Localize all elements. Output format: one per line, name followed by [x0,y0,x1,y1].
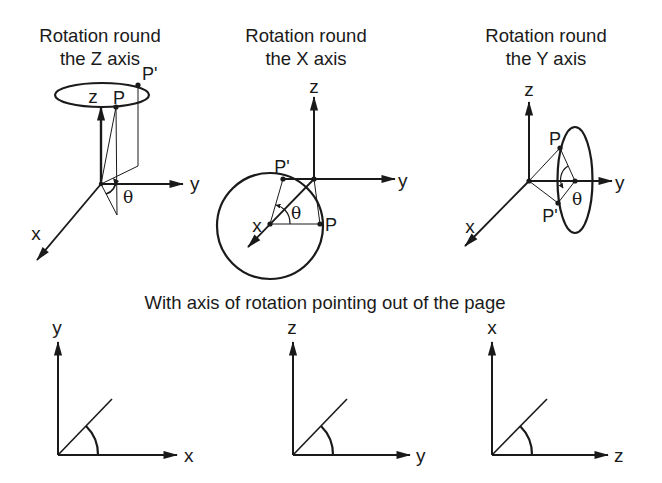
point-p-prime-label: P' [142,64,157,84]
x-axis-label: x [465,216,475,237]
origin-dot [99,182,103,186]
y-axis-label: y [398,170,408,191]
vertical-axis-label: y [52,317,62,338]
vertical-axis-label: z [287,317,297,338]
panel-title-line2: the Z axis [60,48,140,69]
panel-rotation-y: Rotation round the Y axis z y x θ P P' [465,25,625,246]
rotated-vector-line [58,399,112,455]
p-projection-line [116,107,117,215]
theta-label: θ [572,189,582,209]
rotated-vector-line [293,399,347,455]
p-to-center-line [560,148,575,181]
x-axis-label: x [31,223,41,244]
point-p-prime-dot [135,82,140,87]
x-axis-arrow [248,179,314,247]
rotation-diagram: Rotation round the Z axis z y x θ P P' R… [0,0,662,483]
origin-to-p-line [314,179,320,224]
panel-title-line1: Rotation round [245,25,366,46]
z-axis-label: z [309,76,319,97]
point-p-prime-label: P' [274,157,289,177]
y-axis-label: y [190,173,200,194]
theta-arc [561,166,568,188]
planar-diagram-xy: y x [52,317,194,466]
origin-dot [311,176,316,181]
origin-to-p-foot-line [101,184,117,215]
origin-to-p-line [529,148,560,181]
vertical-axis-label: x [487,317,497,338]
rotation-center-dot [267,221,272,226]
x-axis-label: x [252,215,262,236]
theta-label: θ [123,187,133,207]
horizontal-axis-label: y [416,445,426,466]
planar-diagram-zx: x z [487,317,623,466]
point-p-label: P [549,129,561,149]
theta-label: θ [291,203,301,223]
origin-dot [526,178,531,183]
point-p-dot [317,221,322,226]
point-p-prime-label: P' [542,206,557,226]
point-p-label: P [325,215,337,235]
panel-rotation-x: Rotation round the X axis z y x θ P' P [217,25,408,279]
angle-arc [520,426,532,455]
theta-arc [285,210,290,224]
z-axis-label: z [88,86,98,107]
origin-to-p-line [101,107,116,184]
planar-section-subtitle: With axis of rotation pointing out of th… [145,292,506,313]
point-p-label: P [113,88,125,108]
point-p-prime-dot [280,176,285,181]
panel-title-line1: Rotation round [485,25,606,46]
horizontal-axis-label: z [614,445,624,466]
angle-arc [321,426,333,455]
panel-title-line1: Rotation round [39,25,160,46]
panel-title-line2: the X axis [265,48,346,69]
origin-to-p-prime-foot-line [101,166,138,184]
rotation-path-ellipse [55,83,149,107]
y-axis-label: y [615,172,625,193]
angle-arc [86,426,98,455]
planar-diagram-yz: z y [287,317,426,466]
point-p-prime-dot [555,200,560,205]
panel-title-line2: the Y axis [506,48,587,69]
rotation-center-dot [572,178,577,183]
theta-arc-arrow [276,205,285,210]
horizontal-axis-label: x [184,445,194,466]
z-axis-label: z [524,79,534,100]
origin-to-p-prime-line [529,181,558,203]
x-axis-arrow [37,184,101,260]
panel-rotation-z: Rotation round the Z axis z y x θ P P' [31,25,200,260]
